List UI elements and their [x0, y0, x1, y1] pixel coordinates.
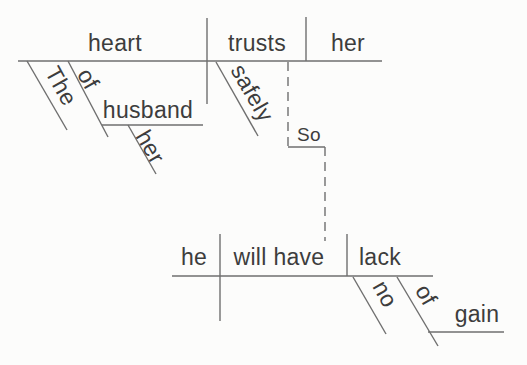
clause1-preposition-object-word: husband: [103, 97, 193, 123]
clause1-article-word: The: [40, 62, 82, 110]
clause2-determiner-word: no: [368, 276, 403, 312]
clause1-object-word: her: [331, 30, 365, 56]
clause1-subject-word: heart: [88, 30, 142, 56]
clause2-subject-word: he: [181, 244, 207, 270]
clause2-verb-word: will have: [233, 244, 325, 270]
clause1-possessive-word: her: [131, 126, 171, 169]
clause1: heart trusts her The of husband her safe…: [18, 17, 382, 174]
conjunction-connector: So: [288, 62, 325, 241]
clause2-object-word: lack: [359, 244, 401, 270]
sentence-diagram: heart trusts her The of husband her safe…: [0, 0, 527, 365]
clause2-preposition-word: of: [410, 280, 443, 310]
conjunction-word: So: [297, 124, 321, 145]
clause2-preposition-object-word: gain: [455, 301, 500, 327]
clause2: he will have lack no of gain: [172, 234, 504, 346]
clause1-verb-word: trusts: [228, 30, 286, 56]
diagram-canvas: heart trusts her The of husband her safe…: [0, 0, 527, 365]
